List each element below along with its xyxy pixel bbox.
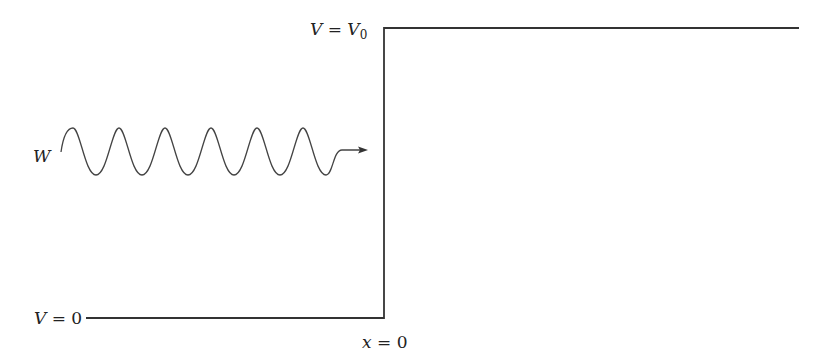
incident-wave: [61, 128, 360, 175]
potential-profile: [86, 28, 799, 318]
label-boundary-x: x = 0: [362, 332, 407, 352]
label-wave-w: W: [33, 146, 52, 166]
label-v-high: V = V0: [310, 19, 367, 42]
label-v-low: V = 0: [34, 308, 82, 328]
potential-step-diagram: V = V0 V = 0 x = 0 W: [0, 0, 838, 361]
